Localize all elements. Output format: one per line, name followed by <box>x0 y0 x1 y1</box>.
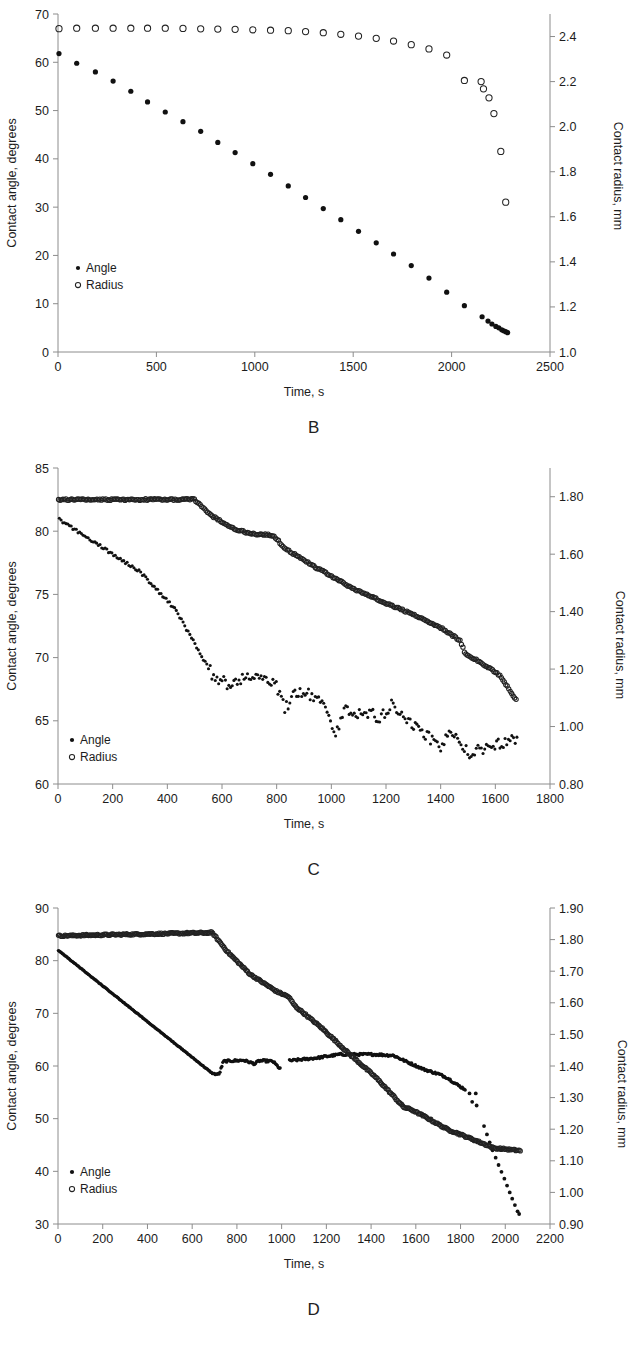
panel-c: 304050607080900.901.001.101.201.301.401.… <box>0 882 628 1302</box>
y-right-tick-label: 1.8 <box>559 165 576 179</box>
y-left-tick-label: 50 <box>35 1112 49 1126</box>
legend: AngleRadius <box>69 1165 117 1196</box>
x-axis-title: Time, s <box>284 385 325 399</box>
y-right-axis-title: Contact radius, mm <box>615 1040 628 1148</box>
x-tick-label: 1500 <box>339 360 367 374</box>
plot-area: 0102030405060701.01.21.41.61.82.02.22.40… <box>5 8 625 400</box>
y-right-tick-label: 1.80 <box>559 933 583 947</box>
y-right-tick-label: 1.6 <box>559 210 576 224</box>
y-left-tick-label: 40 <box>35 1165 49 1179</box>
y-right-tick-label: 1.60 <box>559 996 583 1010</box>
y-left-tick-label: 20 <box>35 249 49 263</box>
y-right-tick-label: 2.2 <box>559 75 576 89</box>
x-tick-label: 400 <box>137 1232 158 1246</box>
x-tick-label: 1200 <box>372 792 400 806</box>
x-tick-label: 1800 <box>447 1232 475 1246</box>
y-right-tick-label: 1.90 <box>559 902 583 916</box>
series-angle-points <box>57 949 467 1092</box>
chart-c-svg: 304050607080900.901.001.101.201.301.401.… <box>0 882 628 1302</box>
y-left-tick-label: 70 <box>35 8 49 22</box>
y-left-tick-label: 80 <box>35 525 49 539</box>
y-left-tick-label: 70 <box>35 651 49 665</box>
x-tick-label: 500 <box>146 360 167 374</box>
y-right-tick-label: 2.0 <box>559 120 576 134</box>
x-tick-label: 600 <box>182 1232 203 1246</box>
x-tick-label: 1600 <box>481 792 509 806</box>
x-tick-label: 1000 <box>268 1232 296 1246</box>
x-axis-title: Time, s <box>284 817 325 831</box>
x-axis-title: Time, s <box>284 1257 325 1271</box>
x-tick-label: 1400 <box>357 1232 385 1246</box>
x-tick-label: 200 <box>92 1232 113 1246</box>
y-left-tick-label: 85 <box>35 462 49 476</box>
x-tick-label: 0 <box>55 792 62 806</box>
x-tick-label: 0 <box>55 360 62 374</box>
chart-b-svg: 6065707580850.801.001.201.401.601.800200… <box>0 440 628 860</box>
y-right-axis-title: Contact radius, mm <box>613 591 627 699</box>
y-right-tick-label: 1.20 <box>559 663 583 677</box>
x-tick-label: 2000 <box>491 1232 519 1246</box>
legend-label-angle: Angle <box>86 261 117 275</box>
x-tick-label: 2500 <box>536 360 564 374</box>
y-left-tick-label: 75 <box>35 588 49 602</box>
y-right-tick-label: 1.40 <box>559 1060 583 1074</box>
series-radius-points <box>56 497 518 702</box>
plot-area: 304050607080900.901.001.101.201.301.401.… <box>5 902 628 1272</box>
y-right-tick-label: 1.50 <box>559 1028 583 1042</box>
y-right-tick-label: 2.4 <box>559 30 576 44</box>
legend-label-angle: Angle <box>80 733 111 747</box>
plot-area: 6065707580850.801.001.201.401.601.800200… <box>5 462 627 832</box>
y-right-tick-label: 1.40 <box>559 605 583 619</box>
y-left-tick-label: 30 <box>35 201 49 215</box>
y-left-tick-label: 90 <box>35 902 49 916</box>
y-right-tick-label: 0.90 <box>559 1218 583 1232</box>
x-tick-label: 2200 <box>536 1232 564 1246</box>
x-tick-label: 400 <box>157 792 178 806</box>
y-left-axis-title: Contact angle, degrees <box>5 118 19 247</box>
panel-letter-c: C <box>0 860 628 880</box>
x-tick-label: 0 <box>55 1232 62 1246</box>
x-tick-label: 1800 <box>536 792 564 806</box>
y-left-tick-label: 50 <box>35 104 49 118</box>
series-radius-points <box>56 25 509 205</box>
y-left-tick-label: 0 <box>42 346 49 360</box>
y-left-tick-label: 40 <box>35 152 49 166</box>
y-right-axis-title: Contact radius, mm <box>611 122 625 230</box>
y-left-tick-label: 65 <box>35 714 49 728</box>
x-tick-label: 1400 <box>427 792 455 806</box>
panel-letter-d: D <box>0 1300 628 1320</box>
legend-label-angle: Angle <box>80 1165 111 1179</box>
x-tick-label: 600 <box>212 792 233 806</box>
y-left-tick-label: 60 <box>35 1060 49 1074</box>
y-right-tick-label: 1.70 <box>559 965 583 979</box>
legend: AngleRadius <box>75 261 123 292</box>
series-angle-points <box>56 51 510 335</box>
y-left-axis-title: Contact angle, degrees <box>5 561 19 690</box>
panel-letter-b: B <box>0 418 628 438</box>
x-tick-label: 200 <box>102 792 123 806</box>
series-radius-points <box>56 930 522 1153</box>
x-tick-label: 800 <box>266 792 287 806</box>
x-tick-label: 1000 <box>241 360 269 374</box>
x-tick-label: 1000 <box>317 792 345 806</box>
y-left-tick-label: 60 <box>35 778 49 792</box>
chart-c: 304050607080900.901.001.101.201.301.401.… <box>0 882 628 1302</box>
y-right-tick-label: 0.80 <box>559 778 583 792</box>
y-left-tick-label: 70 <box>35 1007 49 1021</box>
legend-label-radius: Radius <box>80 1182 117 1196</box>
chart-a-svg: 0102030405060701.01.21.41.61.82.02.22.40… <box>0 0 628 418</box>
chart-b: 6065707580850.801.001.201.401.601.800200… <box>0 440 628 860</box>
y-left-axis-title: Contact angle, degrees <box>5 1001 19 1130</box>
legend-label-radius: Radius <box>80 750 117 764</box>
y-right-tick-label: 1.10 <box>559 1154 583 1168</box>
y-left-tick-label: 10 <box>35 297 49 311</box>
y-left-tick-label: 30 <box>35 1218 49 1232</box>
x-tick-label: 800 <box>226 1232 247 1246</box>
x-tick-label: 1200 <box>312 1232 340 1246</box>
y-right-tick-label: 1.20 <box>559 1123 583 1137</box>
y-left-tick-label: 80 <box>35 954 49 968</box>
y-left-tick-label: 60 <box>35 56 49 70</box>
y-right-tick-label: 1.2 <box>559 300 576 314</box>
y-right-tick-label: 1.00 <box>559 1186 583 1200</box>
panel-a: 0102030405060701.01.21.41.61.82.02.22.40… <box>0 0 628 418</box>
